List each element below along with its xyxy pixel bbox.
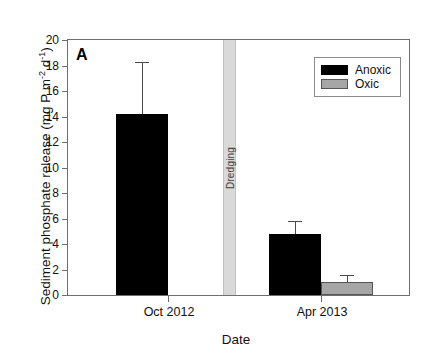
error-bar-cap bbox=[340, 275, 354, 276]
error-bar-line bbox=[347, 275, 348, 283]
y-tick: 20 bbox=[62, 40, 68, 41]
y-tick-label: 4 bbox=[52, 237, 59, 251]
legend-item-anoxic: Anoxic bbox=[321, 63, 391, 77]
error-bar-line bbox=[142, 62, 143, 114]
legend: Anoxic Oxic bbox=[314, 57, 401, 97]
legend-swatch-anoxic bbox=[321, 65, 348, 75]
x-tick: Apr 2013 bbox=[321, 295, 322, 302]
y-tick-label: 6 bbox=[52, 212, 59, 226]
error-bar-line bbox=[295, 221, 296, 234]
y-tick-label: 8 bbox=[52, 186, 59, 200]
bar-anoxic-apr-2013 bbox=[269, 234, 321, 295]
error-bar-cap bbox=[135, 62, 149, 63]
y-tick: 8 bbox=[62, 193, 68, 194]
figure: Sediment phosphate release (mg P m-2 d-1… bbox=[0, 0, 431, 364]
y-tick-label: 10 bbox=[46, 161, 59, 175]
y-tick-label: 20 bbox=[46, 33, 59, 47]
y-tick: 6 bbox=[62, 219, 68, 220]
x-tick-label: Oct 2012 bbox=[144, 305, 195, 319]
legend-item-oxic: Oxic bbox=[321, 77, 391, 91]
y-axis-title-end: ) bbox=[38, 47, 53, 52]
legend-label-anoxic: Anoxic bbox=[355, 64, 391, 76]
y-tick: 10 bbox=[62, 168, 68, 169]
dredging-label: Dredging bbox=[224, 146, 235, 188]
x-tick: Oct 2012 bbox=[168, 295, 169, 302]
y-tick-label: 16 bbox=[46, 84, 59, 98]
y-tick: 18 bbox=[62, 66, 68, 67]
y-tick-label: 0 bbox=[52, 288, 59, 302]
bar-oxic-apr-2013 bbox=[321, 282, 373, 295]
y-tick: 12 bbox=[62, 142, 68, 143]
legend-label-oxic: Oxic bbox=[355, 78, 379, 90]
y-tick: 4 bbox=[62, 244, 68, 245]
plot-area: A 20181614121086420 Oct 2012Apr 2013 Dre… bbox=[67, 39, 410, 296]
bar-anoxic-oct-2012 bbox=[116, 114, 168, 295]
y-tick: 14 bbox=[62, 117, 68, 118]
dredging-band: Dredging bbox=[223, 40, 236, 295]
x-tick-label: Apr 2013 bbox=[297, 305, 348, 319]
y-tick: 16 bbox=[62, 91, 68, 92]
x-axis-title: Date bbox=[60, 332, 412, 347]
y-tick-label: 12 bbox=[46, 135, 59, 149]
y-tick-label: 2 bbox=[52, 263, 59, 277]
y-tick: 0 bbox=[62, 295, 68, 296]
legend-swatch-oxic bbox=[321, 79, 348, 89]
y-tick-label: 18 bbox=[46, 59, 59, 73]
error-bar-cap bbox=[288, 221, 302, 222]
panel-label: A bbox=[76, 46, 88, 64]
y-tick: 2 bbox=[62, 270, 68, 271]
y-tick-label: 14 bbox=[46, 110, 59, 124]
